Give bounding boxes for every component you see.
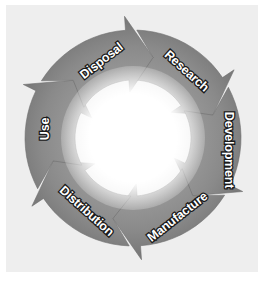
center-glow	[61, 66, 205, 210]
lifecycle-diagram: Research Development Manufacture Distrib…	[0, 0, 267, 285]
stage-use: Use	[38, 118, 52, 141]
stage-development: Development	[222, 112, 236, 189]
stage-label-development: Development	[222, 112, 236, 189]
stage-label-use: Use	[38, 118, 52, 141]
